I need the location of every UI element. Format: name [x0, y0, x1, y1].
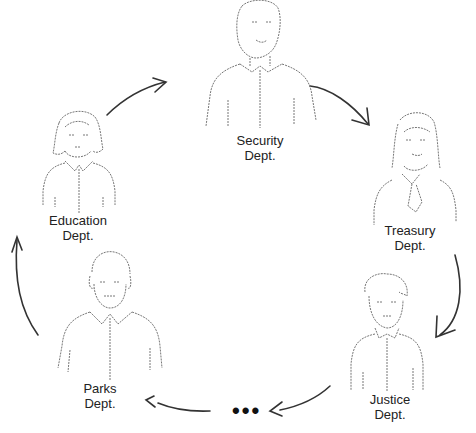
node-parks-sublabel: Dept. [83, 396, 116, 411]
node-security: Security Dept. [237, 133, 284, 163]
figure-parks-man [48, 250, 168, 384]
arrow-parks-to-education [16, 240, 38, 335]
node-security-sublabel: Dept. [237, 148, 284, 163]
rotation-cycle-diagram: Security Dept. Treasury Dept. Justice De… [0, 0, 476, 433]
node-treasury: Treasury Dept. [385, 223, 436, 253]
node-treasury-sublabel: Dept. [385, 238, 436, 253]
node-education-sublabel: Dept. [49, 228, 107, 243]
node-parks: Parks Dept. [83, 381, 116, 411]
figure-security-man [200, 0, 320, 134]
node-justice-label: Justice [370, 392, 410, 407]
figure-education-woman [35, 105, 125, 219]
node-treasury-label: Treasury [385, 223, 436, 238]
figure-treasury-woman [370, 110, 460, 234]
figure-justice-man [335, 272, 435, 396]
node-security-label: Security [237, 133, 284, 148]
node-parks-label: Parks [83, 381, 116, 396]
arrow-treasury-to-justice [440, 255, 460, 335]
node-justice: Justice Dept. [370, 392, 410, 422]
node-education-label: Education [49, 213, 107, 228]
arrow-justice-to-ellipsis [280, 386, 330, 410]
arrow-ellipsis-to-parks [158, 403, 210, 411]
node-justice-sublabel: Dept. [370, 407, 410, 422]
ellipsis-more-departments: ••• [232, 406, 261, 416]
node-education: Education Dept. [49, 213, 107, 243]
